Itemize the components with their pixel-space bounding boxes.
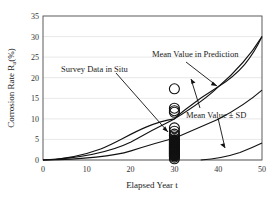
curve-mean-minus-sd xyxy=(201,143,262,160)
x-tick-50: 50 xyxy=(258,165,266,174)
svg-text:Corrosion Rate Ra(%): Corrosion Rate Ra(%) xyxy=(6,48,17,127)
x-axis-title: Elapsed Year t xyxy=(126,180,178,190)
arrowhead-mean-sd-upper xyxy=(191,79,196,84)
x-tick-20: 20 xyxy=(127,165,135,174)
arrowhead-mean-sd-lower xyxy=(220,143,225,148)
y-tick-30: 30 xyxy=(31,33,39,42)
annotation-mean-sd: Mean Value ± SD xyxy=(186,110,246,120)
y-tick-35: 35 xyxy=(31,12,39,21)
x-axis-tick-labels: 0 10 20 30 40 50 xyxy=(41,165,266,174)
y-tick-20: 20 xyxy=(31,74,39,83)
x-tick-30: 30 xyxy=(170,165,178,174)
survey-data-points xyxy=(169,84,179,164)
annotation-mean-prediction: Mean Value in Prediction xyxy=(152,49,239,59)
corrosion-rate-chart: 35 30 25 20 15 10 5 0 0 10 20 30 40 50 E… xyxy=(0,0,276,197)
y-axis-title-main: Corrosion Rate R xyxy=(6,65,16,128)
x-tick-0: 0 xyxy=(41,165,45,174)
y-tick-0: 0 xyxy=(35,156,39,165)
plot-frame xyxy=(43,16,262,160)
y-tick-15: 15 xyxy=(31,94,39,103)
y-axis-title: Corrosion Rate Ra(%) xyxy=(6,48,17,127)
leader-survey xyxy=(116,73,168,132)
y-tick-25: 25 xyxy=(31,53,39,62)
annotation-survey-data: Survey Data in Situ xyxy=(61,64,129,74)
x-tick-10: 10 xyxy=(83,165,91,174)
data-point xyxy=(169,84,179,94)
chart-svg: 35 30 25 20 15 10 5 0 0 10 20 30 40 50 E… xyxy=(0,0,276,197)
x-tick-40: 40 xyxy=(214,165,222,174)
y-tick-5: 5 xyxy=(35,135,39,144)
y-axis-tick-labels: 35 30 25 20 15 10 5 0 xyxy=(31,12,39,165)
y-axis-title-unit: (%) xyxy=(6,48,16,62)
y-tick-10: 10 xyxy=(31,115,39,124)
